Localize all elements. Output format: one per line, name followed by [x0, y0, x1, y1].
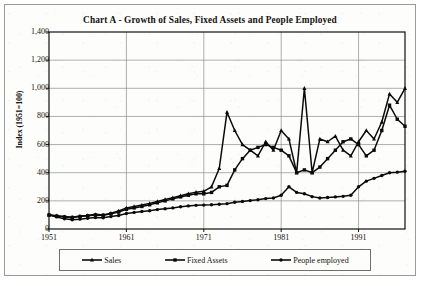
series-marker-circle	[287, 185, 290, 188]
series-marker-triangle	[217, 166, 221, 170]
series-marker-square	[140, 205, 143, 208]
series-marker-circle	[194, 204, 197, 207]
series-marker-circle	[372, 177, 375, 180]
series-marker-circle	[218, 203, 221, 206]
series-fixed-assets	[47, 103, 406, 219]
series-marker-triangle	[380, 120, 384, 124]
series-marker-circle	[396, 170, 399, 173]
series-people-employed	[47, 170, 406, 222]
series-marker-square	[264, 143, 267, 146]
series-marker-square	[303, 168, 306, 171]
chart-legend: SalesFixed AssetsPeople employed	[59, 249, 371, 271]
series-marker-square	[148, 203, 151, 206]
series-marker-square	[225, 184, 228, 187]
series-marker-square	[171, 197, 174, 200]
series-marker-square	[173, 258, 176, 261]
series-marker-square	[179, 195, 182, 198]
series-marker-square	[249, 149, 252, 152]
series-marker-circle	[63, 217, 66, 220]
series-marker-circle	[403, 170, 406, 173]
series-marker-circle	[264, 197, 267, 200]
series-marker-square	[241, 157, 244, 160]
series-marker-circle	[140, 210, 143, 213]
legend-marker-icon	[81, 255, 103, 265]
plot-area	[5, 5, 417, 277]
series-marker-circle	[318, 196, 321, 199]
series-marker-circle	[365, 179, 368, 182]
series-marker-triangle	[364, 128, 368, 132]
series-marker-circle	[187, 204, 190, 207]
legend-marker-icon	[270, 255, 292, 265]
series-marker-circle	[272, 196, 275, 199]
legend-marker-icon	[164, 255, 186, 265]
series-marker-circle	[171, 206, 174, 209]
series-marker-square	[202, 192, 205, 195]
series-marker-square	[279, 149, 282, 152]
series-marker-circle	[380, 174, 383, 177]
series-marker-circle	[132, 211, 135, 214]
series-marker-circle	[334, 195, 337, 198]
series-marker-square	[272, 146, 275, 149]
series-marker-circle	[202, 203, 205, 206]
series-marker-circle	[94, 216, 97, 219]
series-sales	[47, 86, 407, 219]
series-marker-circle	[71, 218, 74, 221]
series-marker-circle	[357, 185, 360, 188]
legend-item-people-employed[interactable]: People employed	[270, 255, 348, 265]
series-marker-square	[125, 208, 128, 211]
series-marker-circle	[86, 217, 89, 220]
legend-item-label: People employed	[293, 256, 348, 265]
series-marker-circle	[303, 192, 306, 195]
series-marker-triangle	[225, 110, 229, 114]
legend-item-fixed-assets[interactable]: Fixed Assets	[164, 255, 228, 265]
series-marker-square	[365, 154, 368, 157]
series-marker-square	[357, 143, 360, 146]
series-marker-circle	[210, 203, 213, 206]
series-marker-circle	[47, 213, 50, 216]
series-marker-circle	[179, 205, 182, 208]
plot-border	[49, 32, 405, 229]
series-marker-square	[218, 185, 221, 188]
series-marker-circle	[163, 207, 166, 210]
series-marker-square	[372, 149, 375, 152]
series-marker-circle	[78, 217, 81, 220]
series-marker-square	[388, 103, 391, 106]
series-marker-circle	[326, 196, 329, 199]
series-marker-circle	[280, 258, 283, 261]
series-marker-square	[117, 210, 120, 213]
series-marker-square	[163, 199, 166, 202]
series-marker-square	[403, 125, 406, 128]
series-marker-square	[341, 140, 344, 143]
series-marker-square	[187, 194, 190, 197]
series-marker-circle	[55, 215, 58, 218]
series-marker-square	[295, 171, 298, 174]
series-marker-triangle	[318, 137, 322, 141]
series-marker-circle	[341, 195, 344, 198]
series-marker-square	[310, 171, 313, 174]
series-line	[49, 88, 405, 217]
series-marker-square	[326, 157, 329, 160]
series-marker-square	[396, 118, 399, 121]
series-marker-triangle	[333, 134, 337, 138]
series-marker-circle	[241, 200, 244, 203]
legend-item-label: Sales	[104, 256, 121, 265]
series-marker-square	[233, 168, 236, 171]
series-marker-circle	[125, 212, 128, 215]
series-marker-circle	[156, 208, 159, 211]
series-marker-square	[380, 129, 383, 132]
series-marker-circle	[279, 194, 282, 197]
series-marker-square	[318, 165, 321, 168]
series-marker-square	[349, 137, 352, 140]
series-marker-circle	[109, 215, 112, 218]
series-marker-circle	[256, 198, 259, 201]
series-marker-circle	[349, 194, 352, 197]
series-marker-circle	[310, 195, 313, 198]
series-marker-circle	[117, 214, 120, 217]
legend-item-sales[interactable]: Sales	[81, 255, 121, 265]
series-marker-square	[132, 206, 135, 209]
series-marker-triangle	[264, 140, 268, 144]
series-marker-circle	[148, 209, 151, 212]
series-marker-square	[287, 154, 290, 157]
series-marker-circle	[295, 191, 298, 194]
series-marker-square	[256, 146, 259, 149]
